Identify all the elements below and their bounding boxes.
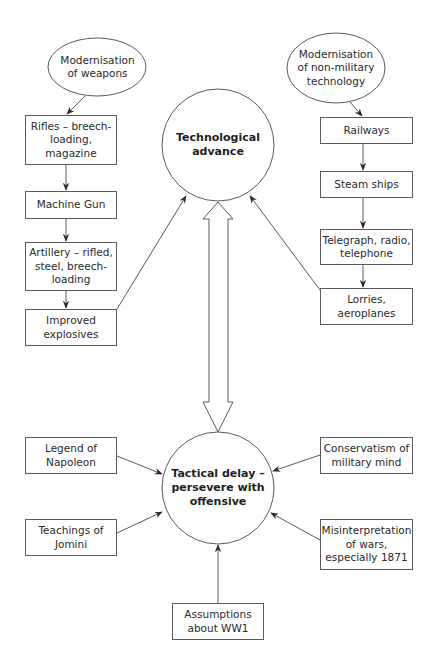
node-steam-ships: Steam ships: [320, 171, 413, 198]
node-label: Steam ships: [334, 178, 398, 192]
node-misinterpretation: Misinterpretation of wars, especially 18…: [320, 519, 413, 570]
node-tactical-delay: Tactical delay – persevere with offensiv…: [162, 432, 274, 544]
node-railways: Railways: [320, 117, 413, 144]
node-napoleon: Legend of Napoleon: [25, 437, 117, 474]
arrow-mod-weapons-rifles: [67, 96, 85, 114]
node-mod-weapons: Modernisation of weapons: [49, 38, 146, 96]
arrow-napoleon-tactical: [117, 456, 162, 474]
node-artillery: Artillery – rifled, steel, breech- loadi…: [25, 242, 117, 291]
node-label: Improved explosives: [43, 314, 98, 341]
arrow-conservatism-tactical: [273, 455, 320, 471]
node-explosives: Improved explosives: [25, 309, 117, 346]
node-label: Modernisation of weapons: [60, 54, 134, 81]
double-hollow-arrow: [203, 202, 233, 432]
node-telegraph: Telegraph, radio, telephone: [320, 229, 413, 265]
node-label: Artillery – rifled, steel, breech- loadi…: [29, 246, 113, 287]
node-label: Misinterpretation of wars, especially 18…: [322, 524, 412, 565]
node-mod-nonmil: Modernisation of non-military technology: [287, 33, 385, 103]
node-assumptions: Assumptions about WW1: [172, 603, 264, 640]
node-rifles: Rifles – breech- loading, magazine: [25, 115, 117, 165]
arrow-jomini-tactical: [117, 512, 162, 533]
node-jomini: Teachings of Jomini: [25, 519, 117, 556]
node-label: Telegraph, radio, telephone: [323, 234, 411, 261]
node-label: Machine Gun: [37, 198, 106, 212]
node-label: Railways: [343, 124, 389, 138]
node-machine-gun: Machine Gun: [25, 191, 117, 219]
node-label: Modernisation of non-military technology: [297, 48, 374, 89]
node-tech-advance: Technological advance: [162, 89, 274, 201]
arrow-mod-nonmil-railways: [350, 102, 362, 116]
node-label: Legend of Napoleon: [45, 442, 97, 469]
node-label: Rifles – breech- loading, magazine: [31, 120, 112, 161]
node-label: Assumptions about WW1: [184, 608, 251, 635]
node-conservatism: Conservatism of military mind: [320, 437, 413, 474]
node-label: Conservatism of military mind: [324, 442, 410, 469]
arrow-explosives-tech: [117, 196, 186, 309]
node-label: Lorries, aeroplanes: [337, 293, 395, 320]
arrow-misinterpretation-tactical: [271, 513, 320, 540]
node-label: Tactical delay – persevere with offensiv…: [171, 467, 264, 509]
node-lorries: Lorries, aeroplanes: [320, 288, 413, 325]
node-label: Technological advance: [176, 131, 260, 159]
node-label: Teachings of Jomini: [38, 524, 103, 551]
arrow-lorries-tech: [250, 196, 320, 290]
